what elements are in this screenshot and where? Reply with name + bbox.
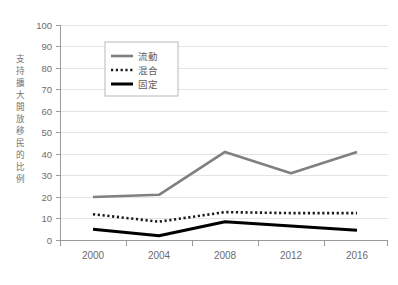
chart-figure: 100 90 80 70 60 50 40 30 20 10 0 2000 20… [0,0,398,285]
y-tick-label-90: 90 [41,41,52,52]
y-axis-title-char-0: 支 [16,53,25,64]
x-tick-label-2000: 2000 [82,250,105,261]
y-axis-title-char-2: 擴 [16,77,25,88]
y-tick-label-20: 20 [41,192,52,203]
y-tick-label-40: 40 [41,149,52,160]
line-chart-canvas: 100 90 80 70 60 50 40 30 20 10 0 2000 20… [0,0,398,285]
y-tick-label-10: 10 [41,213,52,224]
legend-label-fluid: 流動 [138,51,158,62]
legend-label-fixed: 固定 [138,79,158,90]
y-tick-label-80: 80 [41,63,52,74]
y-axis-title-char-7: 民 [16,138,25,148]
y-tick-label-60: 60 [41,106,52,117]
y-axis-title-char-3: 大 [16,89,25,100]
y-axis-title-char-1: 持 [16,65,25,76]
y-tick-label-0: 0 [47,235,52,246]
y-axis-title: 支 持 擴 大 開 放 移 民 的 比 例 [16,53,25,184]
y-axis-title-char-9: 比 [16,161,25,172]
y-tick-label-100: 100 [36,20,52,31]
x-tick-label-2012: 2012 [280,250,303,261]
x-tick-label-2004: 2004 [148,250,171,261]
y-tick-label-30: 30 [41,170,52,181]
x-tick-label-2016: 2016 [346,250,369,261]
legend[interactable]: 流動 混合 固定 [105,42,178,96]
x-tick-label-2008: 2008 [214,250,237,261]
y-tick-label-50: 50 [41,127,52,138]
y-axis-title-char-5: 放 [16,113,25,124]
y-axis-title-char-10: 例 [16,173,25,184]
y-axis-title-char-6: 移 [16,125,25,136]
y-axis-title-char-4: 開 [16,102,25,112]
y-tick-label-70: 70 [41,84,52,95]
legend-label-mixed: 混合 [138,65,158,76]
y-axis-title-char-8: 的 [16,149,25,160]
